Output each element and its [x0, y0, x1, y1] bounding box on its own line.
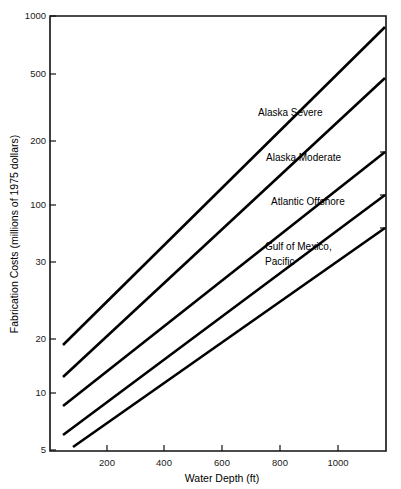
y-tick-label-20: 20 — [35, 333, 46, 344]
series-label-gulf-of-mexico: Gulf of Mexico, — [265, 241, 332, 252]
series-label-atlantic-offshore: Atlantic Offshore — [271, 196, 345, 207]
series-label-pacific: Pacific — [265, 256, 294, 267]
series-label-alaska-moderate: Alaska Moderate — [266, 152, 341, 163]
x-tick-label-600: 600 — [214, 457, 230, 468]
fabrication-costs-line-chart: 1000 500 200 100 30 20 10 5 200 400 600 … — [0, 0, 401, 489]
y-tick-label-5: 5 — [41, 444, 46, 455]
x-axis-title: Water Depth (ft) — [185, 472, 259, 484]
chart-background — [0, 0, 401, 489]
y-tick-label-100: 100 — [30, 199, 46, 210]
x-tick-label-800: 800 — [272, 457, 288, 468]
y-tick-label-1000: 1000 — [25, 10, 46, 21]
y-tick-label-500: 500 — [30, 68, 46, 79]
x-tick-label-1000: 1000 — [327, 457, 348, 468]
x-tick-label-200: 200 — [99, 457, 115, 468]
series-label-alaska-severe: Alaska Severe — [258, 107, 323, 118]
y-tick-label-200: 200 — [30, 135, 46, 146]
chart-figure: 1000 500 200 100 30 20 10 5 200 400 600 … — [0, 0, 401, 489]
y-tick-label-10: 10 — [35, 387, 46, 398]
y-tick-label-30: 30 — [35, 256, 46, 267]
y-axis-title: Fabrication Costs (millions of 1975 doll… — [8, 135, 20, 333]
x-tick-label-400: 400 — [156, 457, 172, 468]
